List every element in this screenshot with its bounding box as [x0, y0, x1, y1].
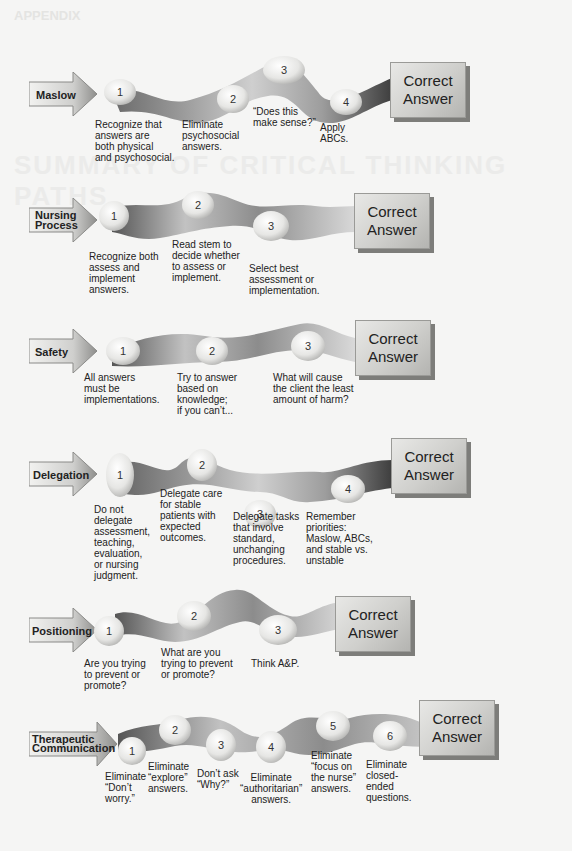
step-pebble-3: 3: [290, 330, 326, 362]
path-label-therapeutic-communication: Therapeutic Communication: [29, 722, 119, 766]
step-pebble-5: 5: [315, 710, 351, 742]
step-caption-1: Recognize that answers are both physical…: [95, 119, 175, 163]
correct-answer-box: CorrectAnswer: [419, 700, 495, 756]
step-caption-3: “Does this make sense?”: [253, 106, 316, 128]
correct-answer-box: CorrectAnswer: [390, 62, 466, 118]
path-safety: Safety 1 2 3 CorrectAnswer All answers m…: [0, 310, 572, 420]
step-pebble-2: 2: [216, 84, 250, 114]
step-caption-1: Eliminate “Don’t worry.”: [105, 771, 146, 804]
step-pebble-3: 3: [205, 728, 237, 762]
step-pebble-1: 1: [103, 78, 137, 106]
step-pebble-6: 6: [372, 720, 408, 752]
step-pebble-2: 2: [186, 448, 218, 482]
step-pebble-1: 1: [117, 736, 147, 766]
path-label-nursing-process: Nursing Process: [29, 198, 99, 242]
step-pebble-1: 1: [93, 615, 125, 647]
step-caption-3: What will cause the client the least amo…: [273, 372, 354, 405]
step-caption-1: All answers must be implementations.: [84, 372, 160, 405]
path-therapeutic-communication: Therapeutic Communication 1 2 3 4 5 6 Co…: [0, 690, 572, 851]
path-label-delegation: Delegation: [29, 452, 99, 496]
step-caption-2: Eliminate “explore” answers.: [148, 761, 189, 794]
step-caption-2: What are you trying to prevent or promot…: [161, 647, 233, 680]
correct-answer-box: CorrectAnswer: [354, 193, 430, 249]
step-caption-3: Delegate tasks that involve standard, un…: [233, 511, 299, 566]
step-pebble-1: 1: [98, 200, 130, 232]
step-caption-5: Eliminate “focus on the nurse” answers.: [311, 750, 356, 794]
step-pebble-3: 3: [258, 614, 298, 646]
correct-answer-box: CorrectAnswer: [335, 596, 411, 652]
step-caption-2: Try to answer based on knowledge; if you…: [177, 372, 237, 416]
step-pebble-3: 3: [252, 210, 290, 242]
step-pebble-2: 2: [195, 336, 229, 366]
step-caption-2: Eliminate psychosocial answers.: [182, 119, 239, 152]
path-nursing-process: Nursing Process 1 2 3 CorrectAnswer Reco…: [0, 180, 572, 310]
step-caption-6: Eliminate closed- ended questions.: [366, 759, 412, 803]
step-pebble-2: 2: [176, 600, 212, 632]
path-label-safety: Safety: [29, 329, 99, 373]
path-label-maslow: Maslow: [29, 72, 99, 116]
step-pebble-1: 1: [105, 452, 135, 498]
step-pebble-2: 2: [181, 190, 215, 220]
step-pebble-3: 3: [262, 55, 306, 85]
correct-answer-box: CorrectAnswer: [355, 320, 431, 376]
step-caption-3: Select best assessment or implementation…: [249, 263, 320, 296]
path-positioning: Positioning 1 2 3 CorrectAnswer Are you …: [0, 570, 572, 690]
step-pebble-4: 4: [255, 730, 287, 764]
step-caption-2: Delegate care for stable patients with e…: [160, 488, 222, 543]
step-caption-1: Are you trying to prevent or promote?: [84, 658, 146, 691]
path-maslow: Maslow 1 2 3 4 CorrectAnswer Recognize t…: [0, 0, 572, 180]
path-delegation: Delegation 1 2 3 4 CorrectAnswer Do not …: [0, 420, 572, 570]
step-pebble-1: 1: [105, 336, 141, 366]
step-pebble-4: 4: [330, 474, 366, 504]
correct-answer-box: CorrectAnswer: [391, 438, 467, 494]
path-label-positioning: Positioning: [29, 608, 99, 652]
step-caption-4: Eliminate “authoritarian” answers.: [240, 772, 302, 805]
step-caption-1: Recognize both assess and implement answ…: [89, 251, 159, 295]
step-caption-4: Remember priorities: Maslow, ABCs, and s…: [306, 511, 373, 566]
step-pebble-4: 4: [329, 88, 363, 116]
step-caption-2: Read stem to decide whether to assess or…: [172, 239, 240, 283]
step-pebble-2: 2: [158, 714, 192, 746]
step-caption-3: Don’t ask “Why?”: [197, 768, 239, 790]
step-caption-3: Think A&P.: [251, 658, 299, 669]
step-caption-4: Apply ABCs.: [320, 122, 348, 144]
